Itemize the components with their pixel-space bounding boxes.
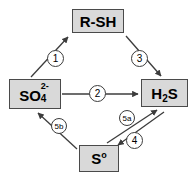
node-s0-superscript: o [101, 150, 107, 160]
step-badge-3: 3 [131, 50, 148, 67]
node-h2s-prefix: H [151, 85, 162, 102]
node-sulfate: SO2-4 [9, 79, 61, 109]
sulfur-cycle-diagram: R-SH SO2-4 H2S So 1 2 3 4 5a 5b [0, 0, 195, 177]
node-sulfate-label: SO2-4 [19, 86, 51, 103]
node-s0: So [79, 145, 119, 172]
node-h2s-label: H2S [151, 86, 177, 101]
step-badge-5a: 5a [119, 110, 135, 126]
node-h2s-suffix: S [168, 85, 178, 102]
step-badge-1: 1 [47, 50, 64, 67]
node-sulfate-superscript: 2- [41, 82, 49, 91]
node-h2s-subscript: 2 [162, 93, 168, 104]
step-badge-4: 4 [126, 132, 143, 149]
node-sulfate-main: SO [19, 87, 41, 104]
step-badge-2: 2 [89, 85, 106, 102]
node-s0-label: So [91, 151, 107, 166]
node-sulfate-subscript: 4 [41, 94, 47, 104]
node-rsh-label: R-SH [80, 14, 117, 29]
node-s0-prefix: S [91, 150, 101, 167]
node-h2s: H2S [141, 79, 188, 107]
node-sulfate-charge-stack: 2-4 [41, 86, 51, 101]
node-rsh: R-SH [72, 9, 124, 33]
step-badge-5b: 5b [51, 118, 67, 134]
